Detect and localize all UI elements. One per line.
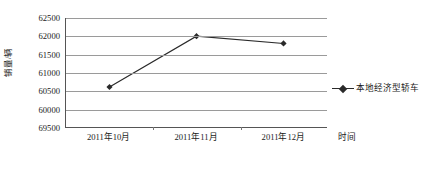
y-axis-title: 销量/辆 (4, 38, 13, 86)
data-point-marker (280, 40, 286, 46)
y-axis-tick-label: 61500 (14, 50, 60, 59)
x-axis-tick-label: 2011年10月 (87, 133, 130, 142)
diamond-marker-icon (332, 84, 354, 93)
data-point-marker (106, 84, 112, 90)
y-axis-tick-label: 60500 (14, 87, 60, 96)
x-axis-tick-mark (153, 127, 154, 130)
y-axis-tick-labels: 62500620006150061000605006000069500 (14, 18, 62, 128)
line-chart: 销量/辆 62500620006150061000605006000069500… (0, 0, 431, 172)
x-axis-tick-labels: 2011年10月2011年11月2011年12月 (65, 133, 327, 149)
gridline (66, 91, 327, 92)
y-axis-tick-label: 60000 (14, 105, 60, 114)
x-axis-title: 时间 (338, 133, 356, 142)
gridline (66, 55, 327, 56)
series-line (110, 36, 284, 87)
plot-area (65, 18, 327, 128)
x-axis-tick-label: 2011年12月 (262, 133, 305, 142)
legend-entry-label: 本地经济型轿车 (356, 84, 419, 93)
x-axis-tick-mark (241, 127, 242, 130)
gridline (66, 73, 327, 74)
y-axis-tick-label: 69500 (14, 124, 60, 133)
x-axis-tick-label: 2011年11月 (174, 133, 217, 142)
y-axis-tick-label: 61000 (14, 69, 60, 78)
y-axis-tick-label: 62500 (14, 14, 60, 23)
chart-legend: 本地经济型轿车 (332, 84, 419, 93)
gridline (66, 36, 327, 37)
y-axis-tick-label: 62000 (14, 32, 60, 41)
gridline (66, 110, 327, 111)
